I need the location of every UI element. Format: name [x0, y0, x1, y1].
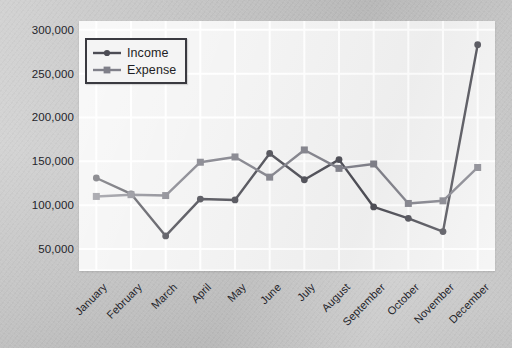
x-axis-tick-label: February	[104, 281, 144, 321]
legend-item-expense[interactable]: Expense	[92, 61, 176, 78]
x-axis-tick-label: August	[319, 281, 352, 314]
legend-item-income[interactable]: Income	[92, 44, 176, 61]
x-axis-tick-label: June	[257, 281, 283, 307]
income-line-swatch-icon	[92, 46, 122, 60]
legend-label-income: Income	[127, 46, 169, 60]
x-axis-tick-label: March	[148, 281, 178, 311]
legend-label-expense: Expense	[127, 63, 176, 77]
chart-legend: Income Expense	[85, 38, 187, 84]
x-axis-tick-label: May	[225, 281, 248, 304]
line-chart-figure: 50,000100,000150,000200,000250,000300,00…	[0, 0, 512, 348]
chart-screenshot: 50,000100,000150,000200,000250,000300,00…	[0, 0, 512, 348]
x-axis-tick-label: April	[189, 281, 213, 305]
x-axis: JanuaryFebruaryMarchAprilMayJuneJulyAugu…	[0, 0, 512, 348]
expense-line-swatch-icon	[92, 63, 122, 77]
x-axis-tick-label: July	[295, 281, 318, 304]
